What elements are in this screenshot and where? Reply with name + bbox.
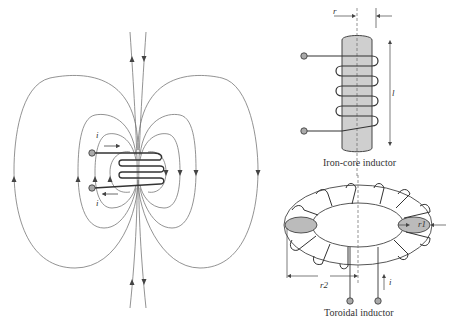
arrow-icon <box>178 170 183 176</box>
solenoid-field-lines <box>14 32 258 308</box>
arrow-icon <box>142 56 147 62</box>
length-label: l <box>392 88 395 98</box>
r1-label: r1 <box>418 219 426 229</box>
arrow-icon <box>130 279 135 285</box>
terminal-top <box>89 150 95 156</box>
toroid <box>284 175 446 300</box>
toroid-caption: Toroidal inductor <box>324 307 394 318</box>
toroid-terminal-left <box>347 298 353 304</box>
radius-label: r <box>333 6 337 16</box>
arrow-icon <box>194 170 199 176</box>
terminal-top <box>301 53 307 59</box>
iron-core <box>301 8 392 178</box>
toroid-terminal-right <box>375 298 381 304</box>
field-arrows <box>12 56 261 285</box>
solenoid-current-label-bottom: i <box>96 198 99 208</box>
arrow-icon <box>164 170 169 176</box>
arrow-icon <box>76 176 81 182</box>
solenoid-coil <box>94 153 164 188</box>
inductor-diagram: i i r l Iron-core inductor r1 r2 i Toroi… <box>0 0 456 322</box>
arrow-icon <box>12 176 17 182</box>
arrow-icon <box>256 170 261 176</box>
terminal-bottom <box>89 185 95 191</box>
terminal-bottom <box>301 128 307 134</box>
arrow-icon <box>130 56 135 62</box>
solenoid-current-label-top: i <box>96 130 99 140</box>
arrow-icon <box>93 176 98 182</box>
arrow-icon <box>108 176 113 182</box>
r2-label: r2 <box>320 280 328 290</box>
arrow-icon <box>142 279 147 285</box>
iron-core-caption: Iron-core inductor <box>323 157 396 168</box>
toroid-current-label: i <box>389 277 392 287</box>
